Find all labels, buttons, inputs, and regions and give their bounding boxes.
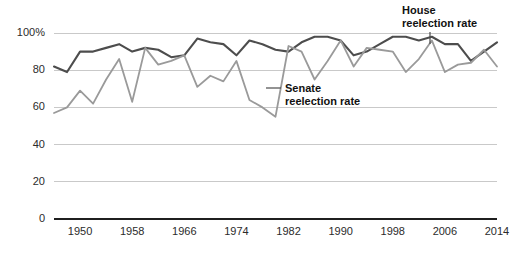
y-tick-label-100: 100% bbox=[17, 26, 45, 38]
x-tick-label-2006: 2006 bbox=[433, 225, 457, 237]
y-tick-label-20: 20 bbox=[33, 175, 45, 187]
x-tick-label-1950: 1950 bbox=[68, 225, 92, 237]
y-axis-tick-labels: 020406080100% bbox=[17, 26, 45, 224]
x-tick-label-1974: 1974 bbox=[224, 225, 248, 237]
reelection-rate-line-chart: 020406080100% 19501958196619741982199019… bbox=[0, 0, 513, 256]
y-tick-label-40: 40 bbox=[33, 138, 45, 150]
x-tick-label-2014: 2014 bbox=[485, 225, 509, 237]
annotations-group: Housereelection rateSenatereelection rat… bbox=[266, 4, 477, 107]
senate-annotation-line2: reelection rate bbox=[285, 95, 360, 107]
series-line-senate bbox=[54, 40, 497, 116]
house-annotation-line1: House bbox=[402, 4, 436, 16]
x-tick-label-1990: 1990 bbox=[328, 225, 352, 237]
y-tick-label-0: 0 bbox=[39, 212, 45, 224]
x-tick-label-1982: 1982 bbox=[276, 225, 300, 237]
x-tick-label-1966: 1966 bbox=[172, 225, 196, 237]
y-tick-label-80: 80 bbox=[33, 63, 45, 75]
senate-annotation-line1: Senate bbox=[285, 82, 321, 94]
house-annotation-line2: reelection rate bbox=[402, 17, 477, 29]
y-tick-label-60: 60 bbox=[33, 100, 45, 112]
chart-container: 020406080100% 19501958196619741982199019… bbox=[0, 0, 513, 256]
x-tick-label-1998: 1998 bbox=[381, 225, 405, 237]
x-axis-tick-labels: 195019581966197419821990199820062014 bbox=[68, 225, 509, 237]
x-tick-label-1958: 1958 bbox=[120, 225, 144, 237]
series-group bbox=[54, 37, 497, 117]
